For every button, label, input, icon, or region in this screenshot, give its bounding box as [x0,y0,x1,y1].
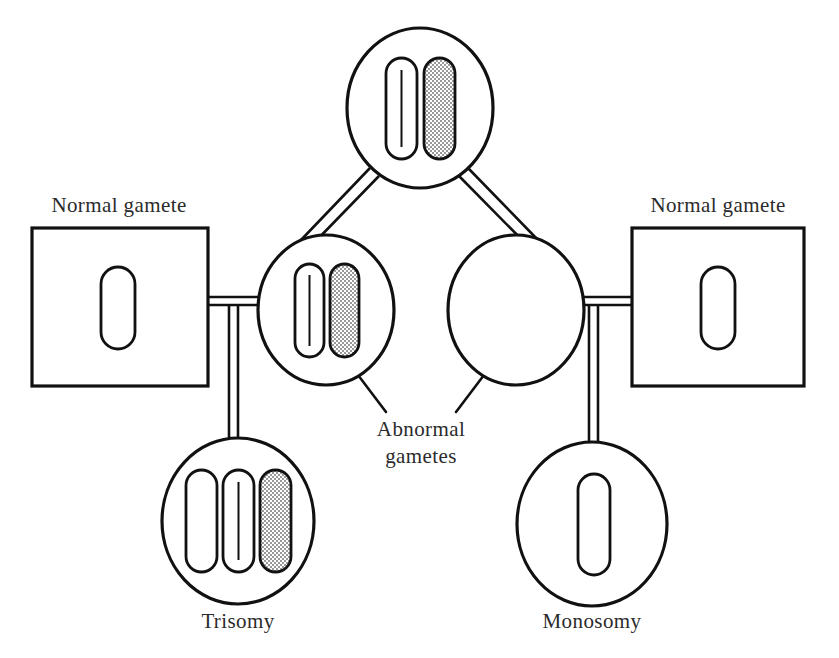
monosomy-cell [517,442,667,606]
normal-gamete-box-right [632,228,804,386]
abnormal-gamete-left-membrane [258,235,394,385]
abnormal-gamete-right-membrane [448,235,584,385]
chromosome-shaded [260,470,291,572]
parent-cell-membrane [347,28,493,188]
chromosome-white [101,267,135,349]
abnormal-gamete-left-cell [258,235,394,385]
chromosome-white [386,58,417,159]
leader-line-right [456,375,484,412]
normal-gamete-left-label: Normal gamete [51,193,186,217]
chromosome-white [295,264,324,357]
leader-line-left [358,375,386,412]
connector-left-box-to-left-gamete [206,297,262,305]
trisomy-cell [162,438,314,604]
chromosome-white [223,470,254,572]
abnormal-gamete-right-cell [448,235,584,385]
chromosome-shaded [424,58,455,159]
normal-gamete-right-label: Normal gamete [650,193,785,217]
connector-down-to-monosomy [589,305,598,445]
monosomy-label: Monosomy [543,609,642,633]
diagram-canvas: Normal gamete Normal gamete Abnormal gam… [0,0,839,658]
abnormal-gametes-label-line1: Abnormal [377,417,465,441]
chromosome-white [578,474,610,575]
chromosome-white [186,470,217,572]
normal-gamete-box-left [32,228,208,386]
chromosome-shaded [330,264,359,357]
nondisjunction-diagram: Normal gamete Normal gamete Abnormal gam… [0,0,839,658]
parent-cell [347,28,493,188]
chromosome-white [701,267,735,349]
connector-down-to-trisomy [229,305,238,443]
connector-right-box-to-right-gamete [583,297,634,305]
trisomy-label: Trisomy [201,609,274,633]
abnormal-gametes-label-line2: gametes [385,444,457,468]
abnormal-gametes-leader-lines [358,375,484,412]
